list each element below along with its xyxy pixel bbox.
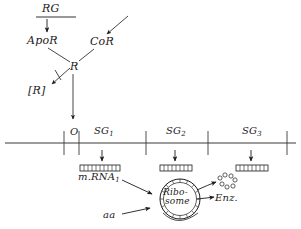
arrow-mrna-to-ribosome xyxy=(122,180,152,194)
arrow-ribosome-to-polypeptide xyxy=(197,182,216,190)
arrow-r-to-inactive-r xyxy=(52,68,70,84)
mrna1-text: m.RNA xyxy=(78,171,115,182)
line-apor-to-r xyxy=(48,48,70,62)
mrna-strand-3 xyxy=(236,165,268,171)
sg1-subscript: 1 xyxy=(109,130,114,138)
label-regulator-gene: RG xyxy=(42,3,59,14)
label-corepressor: CoR xyxy=(90,36,114,47)
label-inactive-repressor: [R] xyxy=(28,85,45,96)
sg2-subscript: 2 xyxy=(181,130,186,138)
label-amino-acids: aa xyxy=(103,210,115,220)
label-operator: O xyxy=(70,127,78,137)
label-structural-gene-2: SG2 xyxy=(166,126,186,138)
label-ribosome-line-2: some xyxy=(165,197,190,206)
label-structural-gene-1: SG1 xyxy=(94,126,114,138)
arrow-into-cor xyxy=(107,16,128,34)
operon-regulation-figure: RG ApoR CoR R [R] O SG1 SG2 SG3 m.RNA1 R… xyxy=(0,0,301,229)
label-repressor: R xyxy=(70,61,78,72)
label-enzyme: Enz. xyxy=(215,193,238,203)
mrna1-subscript: 1 xyxy=(115,176,120,184)
arrow-aa-to-ribosome xyxy=(122,208,150,214)
sg1-text: SG xyxy=(94,125,109,136)
sg3-text: SG xyxy=(242,125,257,136)
label-mrna-1: m.RNA1 xyxy=(78,172,120,184)
sg2-text: SG xyxy=(166,125,181,136)
line-cor-to-r xyxy=(79,49,94,61)
label-aporepressor: ApoR xyxy=(27,35,58,46)
label-structural-gene-3: SG3 xyxy=(242,126,262,138)
mrna-strand-2 xyxy=(160,165,192,171)
polypeptide-chain xyxy=(218,173,237,189)
sg3-subscript: 3 xyxy=(257,130,262,138)
